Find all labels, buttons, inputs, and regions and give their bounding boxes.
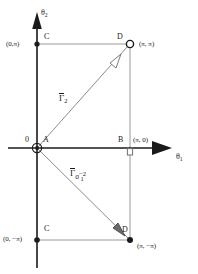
coord-bottom-left: (0, −π) <box>3 236 22 243</box>
gamma-1-line <box>38 149 128 238</box>
theta1-axis-arrowhead <box>152 141 172 155</box>
curve-gamma-2-path <box>38 46 128 147</box>
coord-top-left: (0,π) <box>6 41 19 48</box>
coord-top-right: (π, π) <box>139 41 154 48</box>
point-a-label: A <box>43 136 49 144</box>
point-c-top-label: C <box>44 33 49 41</box>
point-b-label: B <box>118 136 123 144</box>
curve-gamma-1-path <box>38 149 128 238</box>
point-b-square-marker <box>127 149 132 155</box>
point-c-top-dot <box>34 41 39 46</box>
point-d-bottom-dot <box>127 237 133 243</box>
diagram-canvas <box>0 0 198 274</box>
curve-gamma-2-label: Γ2 <box>59 94 67 104</box>
theta1-axis-label: θ1 <box>176 153 183 162</box>
sigma-subscript: 1 <box>81 175 84 182</box>
point-c-bottom-label: C <box>44 225 49 233</box>
theta2-axis <box>32 12 42 268</box>
theta2-axis-label: θ2 <box>41 9 48 18</box>
curve-gamma-1-label: Γσ−21 <box>70 168 84 179</box>
point-d-top-open-circle <box>126 40 133 47</box>
sigma-group: σ−21 <box>75 171 84 182</box>
origin-label: 0 <box>25 136 29 144</box>
gamma-2-subscript: 2 <box>64 97 67 104</box>
domain-rectangle <box>37 44 130 240</box>
coord-mid-right: (π, 0) <box>133 137 148 144</box>
point-d-bottom-label: D <box>122 226 128 234</box>
point-d-top-label: D <box>117 33 123 41</box>
coord-bottom-right: (π, −π) <box>137 243 156 250</box>
gamma-symbol-upper: Γ <box>59 94 64 103</box>
figure-container: θ2 θ1 (0,π) C D (π, π) 0 A B (π, 0) (0, … <box>0 0 198 274</box>
gamma-2-direction-arrowhead <box>110 54 121 68</box>
point-a-center-dot <box>35 146 39 150</box>
point-c-bottom-dot <box>34 237 40 243</box>
